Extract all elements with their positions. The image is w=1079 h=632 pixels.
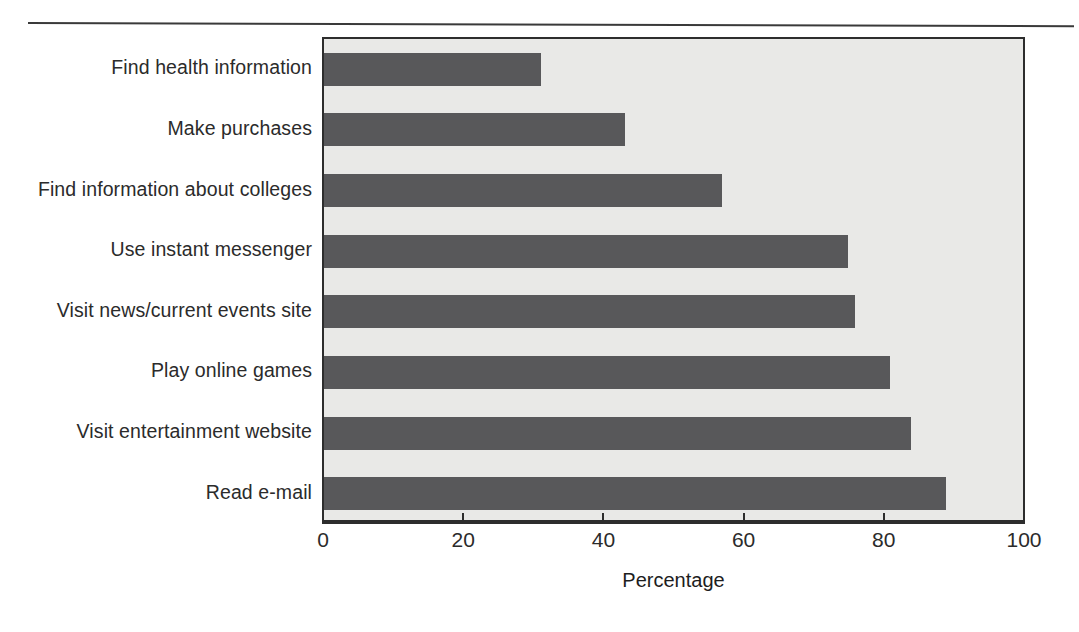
bar-row	[324, 221, 1023, 282]
category-axis-labels: Find health informationMake purchasesFin…	[0, 37, 312, 522]
category-label: Visit news/current events site	[0, 299, 312, 321]
category-label: Play online games	[0, 359, 312, 381]
page-top-rule	[28, 22, 1074, 27]
bar-row	[324, 282, 1023, 343]
bar	[324, 356, 890, 389]
x-axis-tick-mark	[602, 513, 604, 524]
bar	[324, 113, 625, 146]
horizontal-bar-chart: Find health informationMake purchasesFin…	[0, 30, 1079, 590]
bar	[324, 53, 541, 86]
bars-container	[324, 39, 1023, 520]
category-label: Visit entertainment website	[0, 420, 312, 442]
x-axis-tick-mark	[462, 513, 464, 524]
x-axis-tick-label: 0	[317, 528, 329, 552]
bar-row	[324, 100, 1023, 161]
x-axis-tick-mark	[322, 513, 324, 524]
x-axis-line	[322, 522, 1025, 524]
plot-area	[322, 37, 1025, 522]
category-label: Find health information	[0, 56, 312, 78]
bar-row	[324, 463, 1023, 524]
bar	[324, 417, 911, 450]
x-axis-tick-mark	[1023, 513, 1025, 524]
bar	[324, 174, 722, 207]
x-axis-tick-mark	[883, 513, 885, 524]
x-axis-tick-label: 20	[452, 528, 475, 552]
bar-row	[324, 403, 1023, 464]
category-label: Read e-mail	[0, 481, 312, 503]
bar-row	[324, 39, 1023, 100]
bar-row	[324, 342, 1023, 403]
bar	[324, 235, 848, 268]
bar	[324, 295, 855, 328]
x-axis-tick-mark	[743, 513, 745, 524]
x-axis-title: Percentage	[322, 568, 1025, 592]
x-axis-tick-label: 60	[732, 528, 755, 552]
category-label: Make purchases	[0, 117, 312, 139]
x-axis-tick-label: 100	[1006, 528, 1041, 552]
category-label: Use instant messenger	[0, 238, 312, 260]
category-label: Find information about colleges	[0, 178, 312, 200]
chart-page: Find health informationMake purchasesFin…	[0, 0, 1079, 632]
bar-row	[324, 160, 1023, 221]
x-axis-tick-label: 40	[592, 528, 615, 552]
bar	[324, 477, 946, 510]
x-axis-tick-label: 80	[872, 528, 895, 552]
